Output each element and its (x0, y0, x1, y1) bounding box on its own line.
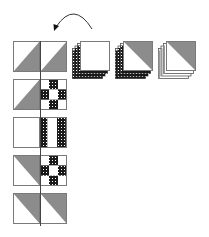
stack-plain (73, 41, 111, 79)
block-plain (80, 41, 110, 71)
checked-edge (123, 71, 151, 74)
checked-edge (78, 46, 81, 74)
checked-patch (49, 79, 58, 89)
block-stacks (73, 41, 197, 79)
block-hst-top-right (166, 41, 196, 71)
checked-patch (49, 100, 58, 110)
block-hst-bottom-right (13, 79, 40, 110)
arrow-curve (56, 14, 92, 29)
block-hst-top-right (13, 155, 40, 186)
rotate-arrow-icon (54, 14, 93, 31)
arrow-head (54, 24, 60, 31)
block-hst-bottom-right (40, 41, 67, 72)
quilt-diagram (0, 0, 209, 237)
checked-patch (40, 89, 49, 99)
checked-patch (58, 89, 67, 99)
stack-hst-plain (159, 41, 197, 79)
edge (159, 51, 161, 79)
checked-stripe (40, 117, 47, 148)
checked-patch (49, 176, 58, 186)
block-hst-top-right (40, 193, 67, 224)
checked-patch (49, 155, 58, 165)
stack-hst-checked (116, 41, 154, 79)
checked-edge (121, 46, 124, 74)
block-nine-patch-checked-cross (40, 79, 67, 110)
checked-stripe (57, 117, 66, 148)
block-nine-patch-checked-cross (40, 155, 67, 186)
checked-edge (80, 71, 108, 74)
block-hst-top-right (123, 41, 153, 71)
block-hst-bottom-right (13, 41, 40, 72)
edge (164, 46, 166, 74)
checked-patch (58, 165, 67, 175)
block-two-vertical-checked-stripes (40, 117, 67, 148)
block-hst-top-right (13, 193, 40, 224)
quilt-assembly-diagram-svg (0, 0, 209, 237)
block-plain (13, 117, 40, 148)
edge (161, 48, 163, 76)
checked-patch (40, 165, 49, 175)
